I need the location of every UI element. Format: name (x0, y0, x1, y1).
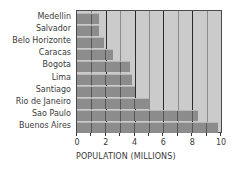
category-label: Medellin (37, 11, 71, 23)
gridline (207, 11, 208, 132)
bar-gridline (206, 123, 207, 133)
bar-gridline (105, 123, 106, 133)
category-label: Sao Paulo (32, 108, 71, 120)
category-label: Rio de Janeiro (16, 96, 71, 108)
x-tick-label: 2 (103, 138, 108, 147)
x-tick-label: 6 (161, 138, 166, 147)
x-tick (76, 133, 77, 136)
x-tick-label: 10 (216, 138, 226, 147)
bar-gridline (120, 99, 121, 109)
x-axis-title: POPULATION (MILLIONS) (76, 152, 176, 161)
x-tick-label: 4 (132, 138, 137, 147)
bar-gridline (91, 75, 92, 85)
bar (77, 86, 135, 97)
x-tick (90, 133, 91, 136)
bar-gridline (192, 111, 193, 121)
category-label: Santiago (36, 84, 71, 96)
bar-gridline (149, 111, 150, 121)
bar-gridline (120, 123, 121, 133)
category-label: Lima (52, 72, 71, 84)
bar-gridline (163, 123, 164, 133)
x-tick (162, 133, 163, 136)
bar-gridline (105, 50, 106, 60)
bar-gridline (149, 123, 150, 133)
bar (77, 74, 132, 85)
x-tick (177, 133, 178, 136)
bar (77, 98, 149, 109)
bar (77, 37, 104, 48)
bar-gridline (91, 50, 92, 60)
x-tick (220, 133, 221, 136)
bar-gridline (91, 123, 92, 133)
x-tick (148, 133, 149, 136)
x-tick-label: 0 (74, 138, 79, 147)
bar-gridline (120, 87, 121, 97)
x-tick (191, 133, 192, 136)
x-tick-label: 8 (190, 138, 195, 147)
bar (77, 61, 130, 72)
bar-gridline (192, 123, 193, 133)
category-label: Salvador (36, 23, 71, 35)
bar-gridline (91, 87, 92, 97)
bar (77, 110, 198, 121)
bar-chart: MedellinSalvadorBelo HorizonteCaracasBog… (0, 0, 240, 177)
category-label: Bogota (43, 59, 71, 71)
bar-gridline (177, 123, 178, 133)
category-label: Buenos Aires (19, 120, 71, 132)
bar-gridline (105, 111, 106, 121)
bar (77, 25, 99, 36)
x-tick (105, 133, 106, 136)
bar-gridline (105, 62, 106, 72)
bar-gridline (105, 99, 106, 109)
bar-gridline (91, 26, 92, 36)
bar-gridline (163, 111, 164, 121)
bar-gridline (177, 111, 178, 121)
bar (77, 49, 113, 60)
bar-gridline (134, 111, 135, 121)
bar-gridline (91, 14, 92, 24)
bar-gridline (134, 123, 135, 133)
x-tick (119, 133, 120, 136)
bar-gridline (105, 87, 106, 97)
bar-gridline (91, 38, 92, 48)
bar-gridline (120, 111, 121, 121)
x-tick (134, 133, 135, 136)
bar-gridline (91, 62, 92, 72)
bar (77, 122, 218, 133)
bar-gridline (91, 111, 92, 121)
x-tick (206, 133, 207, 136)
bar-gridline (120, 62, 121, 72)
plot-area (76, 10, 222, 133)
bar (77, 13, 99, 24)
category-label: Caracas (39, 47, 71, 59)
category-label: Belo Horizonte (12, 35, 71, 47)
bar-gridline (91, 99, 92, 109)
bar-gridline (134, 99, 135, 109)
bar-gridline (120, 75, 121, 85)
bar-gridline (105, 75, 106, 85)
